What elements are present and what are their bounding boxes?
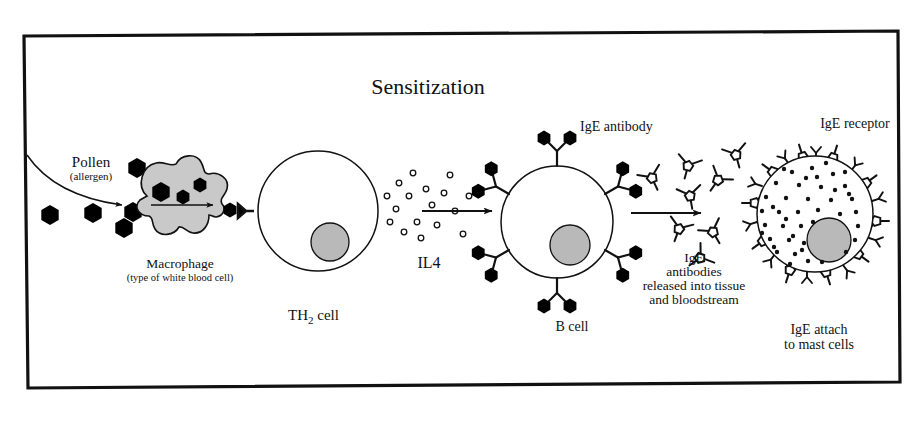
- th2-label-main: TH: [288, 307, 308, 323]
- ige-receptor-label: IgE receptor: [820, 116, 890, 131]
- th2-cell-nucleus: [311, 223, 349, 261]
- ige-released-line-2: antibodies: [666, 264, 722, 279]
- mastcell-label-line-1: IgE attach: [790, 322, 847, 337]
- figure-canvas: Sensitization: [0, 0, 919, 421]
- mastcell-label-line-2: to mast cells: [784, 337, 854, 352]
- ige-released-line-4: and bloodstream: [649, 292, 739, 307]
- bcell-label: B cell: [555, 319, 588, 334]
- th2-label-suffix: cell: [314, 307, 339, 323]
- ige-antibody-label: IgE antibody: [580, 119, 653, 134]
- figure-title: Sensitization: [371, 74, 485, 99]
- pollen-sublabel: (allergen): [70, 170, 113, 183]
- mastcell-nucleus: [807, 218, 851, 262]
- sensitization-diagram: Sensitization: [0, 0, 919, 421]
- macrophage-sublabel: (type of white blood cell): [127, 272, 234, 284]
- ige-released-line-3: released into tissue: [643, 278, 746, 293]
- bcell-nucleus: [550, 225, 590, 265]
- ige-released-line-1: IgE: [684, 250, 704, 265]
- il4-label: IL4: [417, 254, 440, 271]
- bcell-membrane: [501, 166, 613, 278]
- pollen-label: Pollen: [72, 154, 111, 170]
- macrophage-label: Macrophage: [146, 256, 213, 271]
